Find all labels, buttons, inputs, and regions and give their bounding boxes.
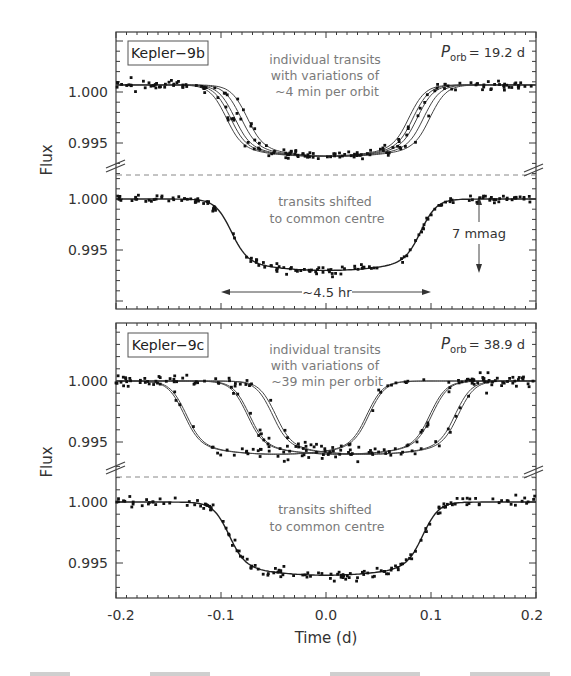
data-point	[323, 447, 326, 450]
data-point	[207, 200, 210, 203]
data-point	[396, 145, 399, 148]
data-point	[226, 93, 229, 96]
data-point	[425, 217, 428, 220]
data-point	[175, 399, 178, 402]
data-point	[470, 81, 473, 84]
data-point	[440, 203, 443, 206]
data-point	[322, 271, 325, 274]
data-point	[433, 208, 436, 211]
data-point	[196, 197, 199, 200]
data-point	[274, 567, 277, 570]
data-point	[128, 377, 131, 380]
data-point	[283, 148, 286, 151]
y-axis-label-lower: Flux	[38, 446, 56, 477]
data-point	[268, 450, 271, 453]
data-point	[492, 498, 495, 501]
data-point	[414, 141, 417, 144]
data-point	[438, 445, 441, 448]
data-point	[132, 503, 135, 506]
data-point	[518, 376, 521, 379]
data-point	[257, 434, 260, 437]
data-point	[482, 378, 485, 381]
data-point	[371, 453, 374, 456]
data-point	[383, 448, 386, 451]
data-point	[202, 202, 205, 205]
data-point	[357, 268, 360, 271]
orbital-period-label: Porb= 19.2 d	[441, 43, 525, 63]
data-point	[317, 157, 320, 160]
data-point	[258, 142, 261, 145]
data-point	[443, 502, 446, 505]
data-point	[232, 232, 235, 235]
data-point	[262, 261, 265, 264]
data-point	[503, 89, 506, 92]
data-point	[438, 204, 441, 207]
data-point	[236, 549, 239, 552]
data-point	[315, 443, 318, 446]
data-point	[193, 503, 196, 506]
data-point	[405, 558, 408, 561]
data-point	[356, 460, 359, 463]
x-tick-label: 0.2	[521, 607, 543, 623]
data-point	[468, 498, 471, 501]
data-point	[169, 377, 172, 380]
data-point	[305, 445, 308, 448]
data-point	[497, 200, 500, 203]
data-point	[288, 450, 291, 453]
data-point	[315, 451, 318, 454]
data-point	[389, 454, 392, 457]
data-point	[130, 76, 133, 79]
data-point	[234, 382, 237, 385]
data-point	[524, 85, 527, 88]
data-point	[434, 440, 437, 443]
data-point	[354, 267, 357, 270]
data-point	[257, 264, 260, 267]
data-point	[380, 569, 383, 572]
data-point	[222, 520, 225, 523]
individual-transits-annotation: individual transits with variations of ~…	[269, 52, 385, 99]
data-point	[183, 197, 186, 200]
data-point	[175, 380, 178, 383]
data-point	[259, 455, 262, 458]
data-point	[404, 381, 407, 384]
data-point	[506, 380, 509, 383]
data-point	[284, 152, 287, 155]
data-point	[304, 441, 307, 444]
data-point	[137, 194, 140, 197]
data-point	[145, 498, 148, 501]
kepler9b-panel: 1.000 0.995 1.000 0.995 Kepler−9b Porb= …	[68, 32, 543, 309]
data-point	[236, 112, 239, 115]
data-point	[250, 567, 253, 570]
data-point	[202, 507, 205, 510]
data-point	[438, 507, 441, 510]
data-point	[527, 382, 530, 385]
data-point	[350, 453, 353, 456]
data-point	[130, 84, 133, 87]
data-point	[458, 382, 461, 385]
data-point	[384, 452, 387, 455]
data-point	[257, 147, 260, 150]
data-point	[267, 572, 270, 575]
data-point	[339, 449, 342, 452]
data-point	[270, 152, 273, 155]
data-point	[394, 565, 397, 568]
data-point	[430, 214, 433, 217]
data-point	[471, 198, 474, 201]
data-point	[277, 455, 280, 458]
data-point	[334, 456, 337, 459]
data-point	[357, 446, 360, 449]
data-point	[418, 233, 421, 236]
data-point	[172, 198, 175, 201]
data-point	[188, 500, 191, 503]
data-point	[307, 456, 310, 459]
data-point	[196, 381, 199, 384]
data-point	[414, 452, 417, 455]
data-point	[303, 268, 306, 271]
data-point	[424, 527, 427, 530]
data-point	[506, 198, 509, 201]
data-point	[116, 86, 119, 89]
data-point	[263, 266, 266, 269]
y-tick-label: 0.995	[68, 555, 108, 571]
data-point	[514, 494, 517, 497]
data-point	[436, 87, 439, 90]
